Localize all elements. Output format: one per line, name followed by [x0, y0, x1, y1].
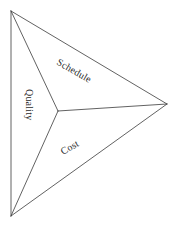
constraint-triangle-diagram: Schedule Quality Cost — [0, 0, 176, 230]
label-quality: Quality — [24, 89, 35, 120]
diagram-root: Schedule Quality Cost — [0, 0, 176, 230]
